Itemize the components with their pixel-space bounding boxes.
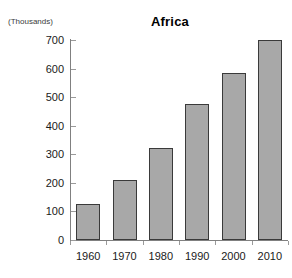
- bar-1970: [113, 180, 137, 240]
- bar-2000: [222, 73, 246, 240]
- x-tick-mark: [215, 241, 216, 245]
- y-tick-label: 700: [24, 34, 64, 46]
- y-tick-mark: [71, 240, 76, 241]
- x-tick-mark: [70, 241, 71, 245]
- x-tick-mark: [288, 241, 289, 245]
- x-tick-mark: [143, 241, 144, 245]
- bar-chart: (Thousands) Africa 010020030040050060070…: [0, 0, 292, 278]
- bar-1980: [149, 148, 173, 240]
- y-tick-label: 200: [24, 177, 64, 189]
- x-tick-label: 1960: [68, 250, 108, 262]
- y-tick-label: 500: [24, 91, 64, 103]
- x-tick-mark: [106, 241, 107, 245]
- bar-1990: [185, 104, 209, 240]
- y-tick-label: 600: [24, 63, 64, 75]
- bar-1960: [76, 204, 100, 240]
- y-axis-unit-caption: (Thousands): [8, 17, 53, 26]
- chart-title: Africa: [110, 14, 230, 29]
- bar-2010: [258, 40, 282, 240]
- x-tick-mark: [252, 241, 253, 245]
- x-tick-label: 1980: [141, 250, 181, 262]
- x-tick-mark: [179, 241, 180, 245]
- y-tick-label: 300: [24, 148, 64, 160]
- y-tick-label: 0: [24, 234, 64, 246]
- x-tick-label: 1970: [105, 250, 145, 262]
- x-tick-label: 2010: [250, 250, 290, 262]
- plot-area: [70, 40, 288, 240]
- y-tick-label: 100: [24, 205, 64, 217]
- x-tick-label: 1990: [177, 250, 217, 262]
- x-tick-label: 2000: [214, 250, 254, 262]
- y-tick-label: 400: [24, 120, 64, 132]
